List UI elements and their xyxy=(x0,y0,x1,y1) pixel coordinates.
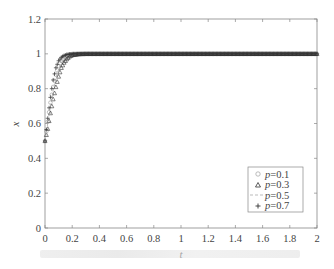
x-tick-label: 1.2 xyxy=(202,233,215,244)
y-tick-label: 1.2 xyxy=(28,14,41,25)
x-tick-label: 0.8 xyxy=(147,233,160,244)
x-tick-label: 0.4 xyxy=(93,233,107,244)
y-axis-label: x xyxy=(9,121,21,127)
x-tick-label: 0.6 xyxy=(120,233,133,244)
x-tick-label: 1.8 xyxy=(283,233,296,244)
y-tick-label: 0.4 xyxy=(28,153,42,164)
x-tick-label: 1.6 xyxy=(256,233,269,244)
y-tick-label: 1 xyxy=(36,48,41,59)
legend-label: p=0.1 xyxy=(264,169,289,180)
chart-svg: 00.20.40.60.811.21.41.61.82 00.20.40.60.… xyxy=(0,0,334,269)
x-tick-label: 0.2 xyxy=(66,233,79,244)
y-tick-label: 0.8 xyxy=(28,83,41,94)
y-tick-label: 0 xyxy=(36,223,41,234)
legend-label: p=0.7 xyxy=(264,200,289,211)
x-tick-label: 2 xyxy=(314,233,319,244)
x-tick-label: 1.4 xyxy=(229,233,243,244)
legend-label: p=0.3 xyxy=(264,179,289,190)
legend: p=0.1 p=0.3 p=0.5 p=0.7 xyxy=(248,167,303,212)
x-tick-label: 0 xyxy=(42,233,47,244)
figure-caption-blurred xyxy=(40,250,300,258)
y-tick-label: 0.6 xyxy=(28,118,41,129)
x-tick-label: 1 xyxy=(178,233,183,244)
y-tick-label: 0.2 xyxy=(28,188,41,199)
legend-label: p=0.5 xyxy=(264,190,289,201)
